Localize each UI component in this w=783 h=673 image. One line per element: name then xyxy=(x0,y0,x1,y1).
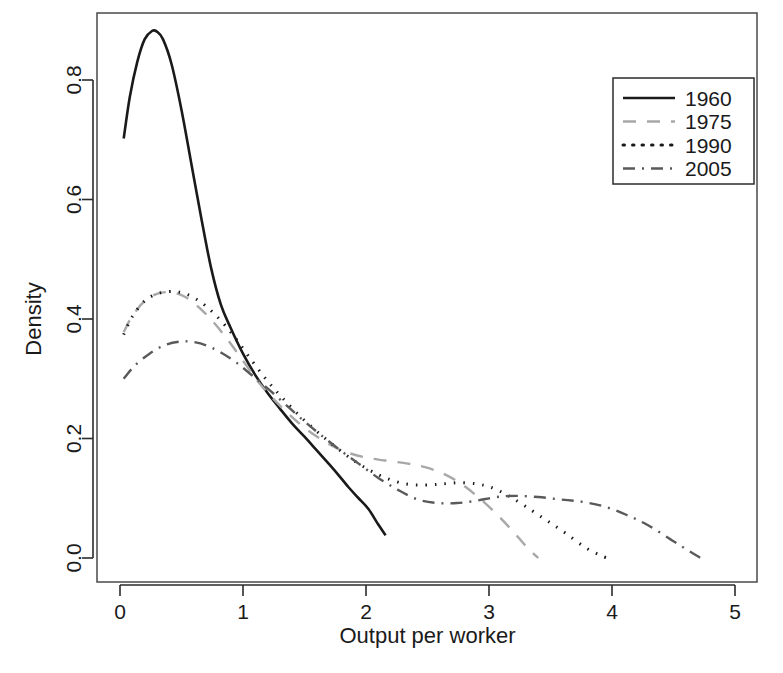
series-line-2005 xyxy=(124,341,701,558)
x-axis: 012345 xyxy=(114,585,741,623)
density-chart: 012345 0.00.20.40.60.8 Output per worker… xyxy=(0,0,783,673)
x-tick-label-0: 0 xyxy=(114,600,126,623)
legend-label-1960: 1960 xyxy=(685,87,732,110)
y-tick-label-0.2: 0.2 xyxy=(62,424,85,453)
x-tick-label-5: 5 xyxy=(729,600,741,623)
x-tick-label-3: 3 xyxy=(483,600,495,623)
series-line-1990 xyxy=(124,291,607,558)
axis-titles: Output per workerDensity xyxy=(21,282,516,648)
y-axis-title: Density xyxy=(21,282,46,355)
chart-legend: 1960197519902005 xyxy=(613,78,754,184)
x-tick-label-4: 4 xyxy=(606,600,618,623)
legend-label-2005: 2005 xyxy=(685,157,732,180)
y-tick-label-0.4: 0.4 xyxy=(62,304,85,334)
x-tick-label-1: 1 xyxy=(237,600,249,623)
legend-label-1990: 1990 xyxy=(685,134,732,157)
y-tick-label-0.6: 0.6 xyxy=(62,185,85,214)
y-tick-label-0.0: 0.0 xyxy=(62,543,85,572)
y-tick-label-0.8: 0.8 xyxy=(62,65,85,94)
x-tick-label-2: 2 xyxy=(360,600,372,623)
series-line-1960 xyxy=(124,30,386,535)
chart-svg: 012345 0.00.20.40.60.8 Output per worker… xyxy=(0,0,783,673)
legend-label-1975: 1975 xyxy=(685,110,732,133)
x-axis-title: Output per worker xyxy=(339,623,515,648)
y-axis: 0.00.20.40.60.8 xyxy=(62,65,94,572)
series-line-1975 xyxy=(124,292,539,558)
